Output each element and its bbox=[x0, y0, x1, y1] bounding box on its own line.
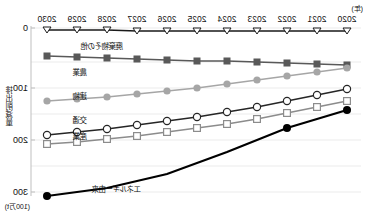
chart-plate: (年) 2020 2021 2022 2023 2024 2025 2026 2… bbox=[0, 0, 375, 213]
y-axis-title: 排出削減量 bbox=[4, 86, 15, 126]
legend-label-transport: 交通 bbox=[73, 114, 87, 125]
chart-canvas bbox=[0, 0, 375, 213]
legend-label-buildings: 建物 bbox=[73, 90, 87, 101]
y-axis-unit-label: (100万t) bbox=[5, 201, 30, 211]
series-buildings bbox=[43, 64, 350, 104]
y-tick-100: 100 bbox=[13, 83, 28, 93]
legend-label-industry: 産業 bbox=[73, 130, 87, 141]
gridlines bbox=[31, 28, 361, 192]
y-axis-spine bbox=[31, 26, 35, 196]
y-tick-300: 300 bbox=[13, 187, 28, 197]
series-agriculture bbox=[44, 53, 351, 69]
legend-label-waste-other: 廃棄物その他 bbox=[81, 40, 123, 51]
y-tick-0: 0 bbox=[23, 23, 28, 33]
y-tick-200: 200 bbox=[13, 135, 28, 145]
legend-label-agriculture: 農業 bbox=[73, 66, 87, 77]
legend-label-energy-derived: エネルギー由来 bbox=[92, 183, 141, 194]
